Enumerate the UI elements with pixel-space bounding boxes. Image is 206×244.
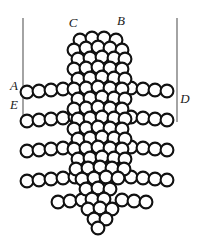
sphere	[21, 145, 34, 158]
sphere	[128, 195, 141, 208]
sphere	[161, 174, 174, 187]
sphere	[161, 114, 174, 127]
sphere	[149, 84, 162, 97]
label-D: D	[179, 91, 190, 106]
sphere	[161, 85, 174, 98]
sphere	[21, 86, 34, 99]
label-E: E	[9, 97, 18, 112]
sphere	[64, 195, 77, 208]
sphere	[21, 175, 34, 188]
sphere	[45, 173, 58, 186]
sphere	[137, 142, 150, 155]
label-B: B	[117, 13, 125, 28]
sphere	[137, 172, 150, 185]
sphere	[92, 222, 105, 235]
sphere	[161, 144, 174, 157]
sphere	[45, 143, 58, 156]
lattice-diagram-svg: ABCDE	[0, 0, 206, 244]
label-C: C	[69, 15, 78, 30]
label-A: A	[9, 78, 18, 93]
sphere	[137, 83, 150, 96]
sphere	[33, 174, 46, 187]
sphere	[140, 196, 153, 209]
sphere	[45, 113, 58, 126]
sphere	[45, 84, 58, 97]
sphere	[57, 172, 70, 185]
sphere	[137, 112, 150, 125]
sphere	[33, 85, 46, 98]
lattice-diagram-figure: ABCDE	[0, 0, 206, 244]
sphere	[33, 114, 46, 127]
sphere	[33, 144, 46, 157]
sphere	[149, 143, 162, 156]
sphere	[149, 113, 162, 126]
sphere	[52, 196, 65, 209]
sphere	[57, 112, 70, 125]
sphere	[149, 173, 162, 186]
sphere	[21, 115, 34, 128]
